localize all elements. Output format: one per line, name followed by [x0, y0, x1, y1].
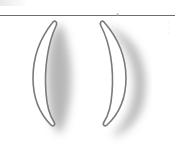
right-crescent-shape	[92, 18, 152, 150]
rule-mark: a	[116, 11, 119, 17]
left-crescent-shape	[20, 18, 80, 150]
left-crescent-icon	[20, 18, 80, 150]
right-crescent-icon	[92, 18, 152, 150]
top-smudge	[0, 0, 28, 6]
horizontal-rule	[0, 15, 175, 16]
side-caption: · · ·	[162, 22, 172, 34]
